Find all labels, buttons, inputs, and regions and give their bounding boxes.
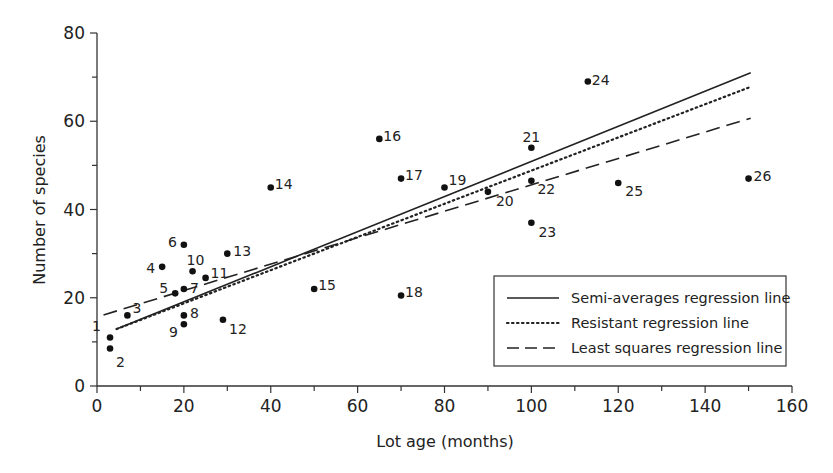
data-point-label: 23 [538, 224, 556, 240]
data-point-label: 18 [405, 284, 423, 300]
x-tick-label: 120 [602, 396, 634, 416]
x-axis-title: Lot age (months) [376, 432, 513, 451]
y-tick-label: 80 [63, 23, 85, 43]
data-point-label: 17 [405, 167, 423, 183]
data-point-label: 19 [449, 172, 467, 188]
data-point-label: 2 [116, 354, 125, 370]
data-point [485, 189, 492, 196]
data-point-label: 5 [159, 280, 168, 296]
legend: Semi-averages regression line Resistant … [494, 276, 790, 366]
y-tick-label: 0 [74, 376, 85, 396]
data-point [202, 275, 209, 282]
data-point [267, 184, 274, 191]
data-point [181, 312, 188, 319]
data-point [124, 312, 131, 319]
data-point-label: 9 [169, 324, 178, 340]
x-tick-label: 100 [515, 396, 547, 416]
data-point-label: 26 [754, 168, 772, 184]
data-point-label: 4 [146, 260, 155, 276]
data-point [615, 180, 622, 187]
data-point [159, 264, 166, 271]
data-point-label: 1 [92, 318, 101, 334]
legend-label-semi-averages: Semi-averages regression line [571, 290, 790, 306]
y-tick-label: 20 [63, 288, 85, 308]
data-point [181, 242, 188, 249]
data-point-label: 24 [592, 72, 610, 88]
x-tick-label: 140 [689, 396, 721, 416]
x-tick-label: 160 [776, 396, 808, 416]
data-point [181, 321, 188, 328]
data-point [107, 345, 114, 352]
data-point-label: 6 [168, 234, 177, 250]
x-tick-label: 40 [260, 396, 282, 416]
data-point [224, 250, 231, 257]
data-point-label: 16 [383, 128, 401, 144]
data-point [189, 268, 196, 275]
scatter-chart: 020406080100120140160020406080 123456789… [0, 0, 833, 473]
data-point [398, 175, 405, 182]
x-tick-label: 60 [347, 396, 369, 416]
data-point [528, 178, 535, 185]
data-point-label: 11 [211, 265, 229, 281]
data-point [172, 290, 179, 297]
data-point-label: 3 [132, 300, 141, 316]
data-point [745, 175, 752, 182]
data-point [398, 292, 405, 299]
data-point [528, 144, 535, 151]
data-point [528, 219, 535, 226]
data-point [181, 286, 188, 293]
y-tick-label: 60 [63, 111, 85, 131]
x-tick-label: 0 [92, 396, 103, 416]
legend-label-least-squares: Least squares regression line [571, 340, 782, 356]
y-axis-title: Number of species [30, 135, 49, 285]
legend-label-resistant: Resistant regression line [571, 315, 749, 331]
data-point [220, 317, 227, 324]
data-point-label: 22 [537, 181, 555, 197]
data-point-label: 7 [190, 280, 199, 296]
y-tick-label: 40 [63, 200, 85, 220]
data-point [311, 286, 318, 293]
data-point [441, 184, 448, 191]
data-point-label: 13 [233, 243, 251, 259]
data-point [107, 334, 114, 341]
data-point-label: 25 [625, 183, 643, 199]
data-point [585, 78, 592, 85]
x-tick-label: 80 [434, 396, 456, 416]
data-point-label: 15 [318, 277, 336, 293]
data-point-label: 12 [229, 321, 247, 337]
data-point-label: 14 [275, 176, 293, 192]
x-tick-label: 20 [173, 396, 195, 416]
data-point-label: 20 [496, 193, 514, 209]
data-point-label: 8 [190, 305, 199, 321]
data-point [376, 136, 383, 143]
data-point-label: 10 [187, 252, 205, 268]
data-point-label: 21 [522, 129, 540, 145]
